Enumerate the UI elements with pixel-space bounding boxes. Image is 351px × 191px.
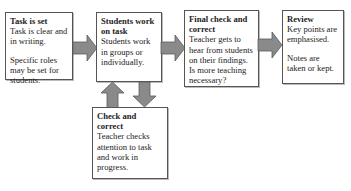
box-check-correct: Check and correct Teacher checks attenti…: [92, 107, 168, 179]
box-text: Teacher checks attention to task and wor…: [97, 131, 163, 172]
box-text: Notes are taken or kept.: [287, 53, 339, 73]
box-text: Students work in groups or individually.: [101, 36, 157, 67]
up-arrow-icon: [101, 82, 124, 108]
down-arrow-icon: [133, 82, 156, 107]
box-task-is-set: Task is set Task is clear and in writing…: [5, 12, 73, 80]
box-title: Check and correct: [97, 111, 163, 131]
box-title: Task is set: [10, 16, 68, 26]
right-arrow-icon: [73, 35, 98, 61]
box-text: Teacher gets to hear from students on th…: [189, 34, 254, 85]
box-title: Final check and correct: [189, 14, 254, 34]
box-title: Review: [287, 14, 339, 24]
box-review: Review Key points are emphasised. Notes …: [282, 10, 344, 84]
box-title: Students work on task: [101, 16, 157, 36]
box-text: Task is clear and in writing.: [10, 26, 68, 46]
box-text: Key points are emphasised.: [287, 24, 339, 44]
box-students-work: Students work on task Students work in g…: [96, 12, 162, 82]
box-text: Specific roles may be set for students.: [10, 55, 68, 86]
box-final-check: Final check and correct Teacher gets to …: [184, 10, 259, 87]
right-arrow-icon: [258, 32, 283, 58]
right-arrow-icon: [161, 35, 186, 61]
